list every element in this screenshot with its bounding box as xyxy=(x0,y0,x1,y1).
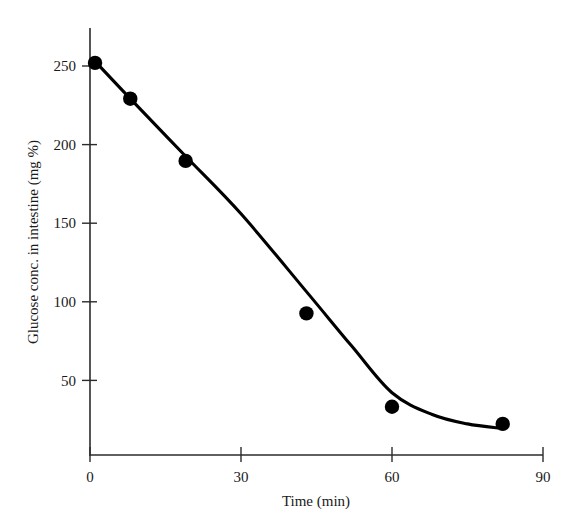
y-tick-label-100: 100 xyxy=(54,294,77,310)
data-point xyxy=(178,154,192,168)
data-point xyxy=(385,400,399,414)
x-tick-label-90: 90 xyxy=(536,469,551,485)
x-tick-label-60: 60 xyxy=(385,469,400,485)
y-tick-label-250: 250 xyxy=(54,58,77,74)
data-point xyxy=(88,56,102,70)
x-tick-label-30: 30 xyxy=(234,469,249,485)
y-tick-label-150: 150 xyxy=(54,215,77,231)
data-point xyxy=(299,306,313,320)
x-tick-label-0: 0 xyxy=(86,469,94,485)
x-axis-title: Time (min) xyxy=(282,493,350,510)
data-point xyxy=(123,91,137,105)
data-point-group xyxy=(88,56,510,431)
y-tick-label-50: 50 xyxy=(61,373,76,389)
y-axis-title: Glucose conc. in intestine (mg %) xyxy=(25,140,42,344)
y-tick-label-200: 200 xyxy=(54,137,77,153)
fitted-trend-line xyxy=(95,61,503,428)
chart-canvas: 50 100 150 200 250 0 30 60 90 Time (min)… xyxy=(0,0,573,520)
chart-figure: 50 100 150 200 250 0 30 60 90 Time (min)… xyxy=(0,0,573,520)
data-point xyxy=(496,417,510,431)
